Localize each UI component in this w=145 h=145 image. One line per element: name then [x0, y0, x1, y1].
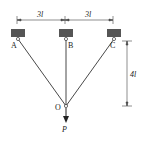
- support-c: [107, 29, 121, 37]
- top-dimension: [17, 16, 113, 24]
- label-o: O: [55, 103, 61, 112]
- bars: [18, 39, 114, 106]
- support-a: [11, 29, 25, 37]
- label-b: B: [68, 41, 73, 50]
- pin-a: [16, 37, 19, 40]
- label-p: P: [61, 125, 67, 134]
- right-span-label: 3l: [84, 10, 92, 19]
- truss-diagram: 3l 3l 4l A B C O P: [0, 0, 145, 145]
- label-a: A: [11, 41, 17, 50]
- pin-o: [64, 104, 67, 107]
- label-c: C: [110, 41, 115, 50]
- support-b: [59, 29, 73, 37]
- arrow-head-icon: [63, 116, 69, 123]
- height-label: 4l: [130, 70, 137, 79]
- left-span-label: 3l: [36, 10, 44, 19]
